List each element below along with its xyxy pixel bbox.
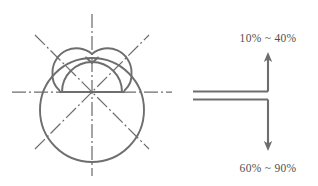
technical-drawing-canvas: 10% ~ 40% 60% ~ 90% (0, 0, 318, 186)
dimension-callout-group (193, 57, 268, 145)
lower-percentage-label: 60% ~ 90% (240, 162, 297, 174)
centerline-group (12, 14, 172, 176)
figure-root: 10% ~ 40% 60% ~ 90% (0, 0, 318, 186)
upper-percentage-label: 10% ~ 40% (240, 32, 297, 44)
